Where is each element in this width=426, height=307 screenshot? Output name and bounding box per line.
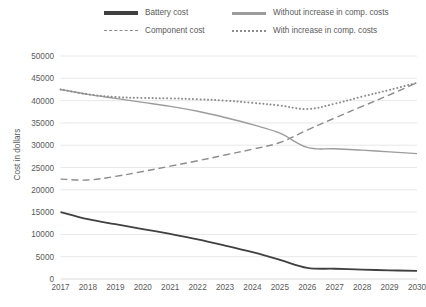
series-lines — [61, 83, 418, 271]
gridlines — [61, 56, 418, 279]
x-axis-tick-2019: 2019 — [106, 283, 124, 292]
x-axis-tick-2018: 2018 — [79, 283, 97, 292]
x-axis-tick-2024: 2024 — [243, 283, 261, 292]
series-line-component-cost — [61, 83, 418, 180]
x-axis-tick-2028: 2028 — [353, 283, 371, 292]
x-axis-tick-2026: 2026 — [298, 283, 316, 292]
series-line-battery-cost — [61, 212, 418, 271]
x-axis-tick-2025: 2025 — [271, 283, 289, 292]
x-axis-tick-2022: 2022 — [189, 283, 207, 292]
x-axis-tick-2020: 2020 — [134, 283, 152, 292]
x-axis-tick-2027: 2027 — [326, 283, 344, 292]
x-axis-tick-2021: 2021 — [161, 283, 179, 292]
x-axis-tick-2017: 2017 — [51, 283, 69, 292]
x-axis-tick-2030: 2030 — [408, 283, 426, 292]
x-axis-tick-2023: 2023 — [216, 283, 234, 292]
x-axis-tick-2029: 2029 — [380, 283, 398, 292]
x-axis-tick-labels: 2017201820192020202120222023202420252026… — [0, 283, 425, 303]
series-line-without-increase-in-comp-costs — [61, 89, 418, 153]
